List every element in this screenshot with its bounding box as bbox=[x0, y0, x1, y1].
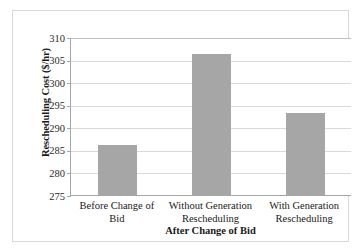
y-tick-mark bbox=[67, 196, 71, 197]
bar bbox=[192, 54, 231, 195]
bar bbox=[286, 113, 325, 195]
x-tick-label-line: Rescheduling bbox=[165, 213, 257, 226]
y-tick-label: 290 bbox=[35, 123, 65, 134]
y-tick-label: 310 bbox=[35, 33, 65, 44]
x-tick-label-line: With Generation bbox=[258, 200, 350, 213]
y-tick-label: 285 bbox=[35, 145, 65, 156]
x-tick-label: Without GenerationRescheduling bbox=[165, 200, 257, 225]
y-tick-label: 280 bbox=[35, 168, 65, 179]
bar-series bbox=[71, 38, 351, 195]
y-tick-label: 275 bbox=[35, 191, 65, 202]
plot-area bbox=[70, 38, 351, 196]
x-tick-label-line: Rescheduling bbox=[258, 213, 350, 226]
x-tick-label: Before Change of Bid bbox=[71, 200, 163, 225]
x-tick-label: With GenerationRescheduling bbox=[258, 200, 350, 225]
y-tick-label: 295 bbox=[35, 100, 65, 111]
y-tick-label: 305 bbox=[35, 55, 65, 66]
chart-frame: Rescheduling Cost ($/hr) 310305300295290… bbox=[12, 10, 349, 242]
y-axis-tick-labels: 310305300295290285280275 bbox=[35, 33, 65, 199]
x-tick-label-line: Before Change of Bid bbox=[71, 200, 163, 225]
bar bbox=[98, 145, 137, 195]
y-tick-label: 300 bbox=[35, 78, 65, 89]
x-tick-label-line: Without Generation bbox=[165, 200, 257, 213]
chart-figure: Rescheduling Cost ($/hr) 310305300295290… bbox=[0, 0, 361, 252]
x-axis-title: After Change of Bid bbox=[70, 225, 351, 236]
